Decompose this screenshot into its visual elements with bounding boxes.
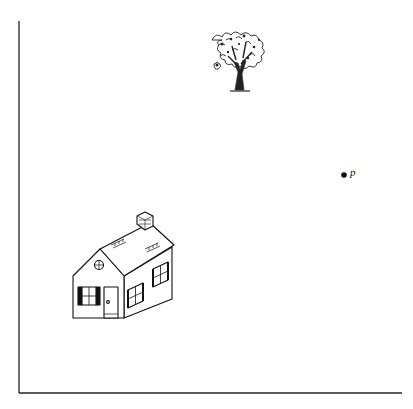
front-window xyxy=(78,287,100,305)
point-p-label: p xyxy=(350,166,356,178)
diagram-canvas xyxy=(0,0,413,409)
tree-icon xyxy=(212,32,264,91)
front-door xyxy=(104,287,118,318)
house-icon xyxy=(73,212,174,318)
chimney xyxy=(137,212,153,230)
axes xyxy=(19,21,402,393)
point-p-marker xyxy=(341,172,347,178)
